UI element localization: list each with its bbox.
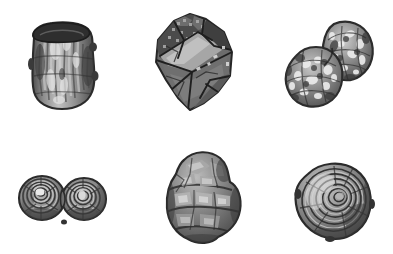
particle-panel-4 [12, 162, 116, 234]
particle-panel-1 [18, 14, 110, 118]
figure-root [0, 0, 393, 254]
particle-panel-2 [144, 6, 248, 122]
particle-body [154, 13, 232, 110]
lumpy-stacked-particle [154, 144, 250, 252]
symmetric-doublet-particle [12, 162, 116, 234]
particle-body [161, 152, 246, 250]
doublet-right-sphere [62, 176, 106, 222]
angular-faceted-particle [144, 6, 248, 122]
bright-core [36, 188, 45, 195]
lobe-lower-left [284, 47, 342, 107]
doublet-neck [61, 190, 66, 208]
particle-panel-6 [284, 150, 384, 250]
bottom-nub [61, 220, 67, 225]
facet-set [154, 13, 232, 110]
particle-body [28, 22, 99, 109]
particle-body [294, 161, 380, 244]
cylinder-top-rim [33, 23, 89, 43]
particle-panel-5 [154, 144, 250, 252]
spheroidal-particle [284, 150, 384, 250]
particle-panel-3 [274, 10, 384, 120]
diagonal-doublet-particle [274, 10, 384, 120]
cylindrical-particle [18, 14, 110, 118]
doublet-left-sphere [19, 174, 65, 222]
